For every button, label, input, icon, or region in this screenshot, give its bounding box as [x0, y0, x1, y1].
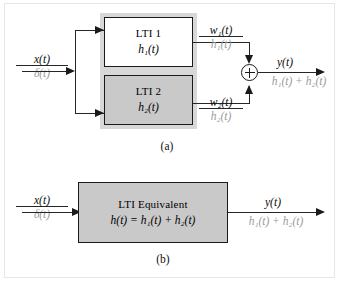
block-diagram-figure: x(t) δ(t) LTI 1 h₁(t) LTI 2 h₂(t) w₁(t) … — [0, 0, 340, 282]
diagram-a-w1-secondary: h₁(t) — [199, 37, 243, 50]
diagram-a-branch2-arrowhead — [95, 109, 104, 117]
diagram-a-branch1-arrowhead — [95, 26, 104, 34]
diagram-a-w1-primary: w₁(t) — [199, 24, 243, 36]
diagram-b-output-primary-label: y(t) — [252, 196, 294, 208]
block-lti-equivalent-equation: h(t) = h₁(t) + h₂(t) — [111, 214, 196, 228]
diagram-b-output-arrowhead — [316, 208, 325, 216]
diagram-a-output-primary: y(t) — [264, 56, 306, 68]
diagram-a-w2-primary: w₂(t) — [199, 96, 243, 108]
diagram-a-w1-label: w₁(t) h₁(t) — [199, 24, 243, 50]
diagram-b-input-wire — [22, 212, 78, 213]
diagram-a-w2-arrowhead — [245, 85, 253, 94]
summing-junction-icon[interactable] — [241, 64, 258, 81]
diagram-a-output-primary-label: y(t) — [264, 56, 306, 68]
summing-junction-plus-vertical — [249, 68, 250, 78]
diagram-a-input-arrowhead — [66, 67, 75, 75]
block-lti-1-impulse-response: h₁(t) — [138, 43, 159, 57]
diagram-a-input-primary: x(t) — [16, 53, 68, 65]
block-lti-2[interactable]: LTI 2 h₂(t) — [104, 75, 193, 125]
diagram-a-input-label: x(t) δ(t) — [16, 53, 68, 79]
diagram-a-w1-arrowhead — [245, 55, 253, 64]
diagram-a-output-secondary-label: h₁(t) + h₂(t) — [258, 74, 340, 87]
diagram-a-w2-label: w₂(t) h₂(t) — [199, 96, 243, 122]
block-lti-2-impulse-response: h₂(t) — [138, 101, 159, 115]
block-lti-equivalent-title: LTI Equivalent — [118, 198, 187, 211]
diagram-b-input-secondary: δ(t) — [16, 207, 68, 220]
diagram-a-input-secondary: δ(t) — [16, 66, 68, 79]
diagram-b-input-label: x(t) δ(t) — [16, 194, 68, 220]
diagram-b-output-primary: y(t) — [252, 196, 294, 208]
block-lti-equivalent[interactable]: LTI Equivalent h(t) = h₁(t) + h₂(t) — [78, 182, 228, 243]
caption-a: (a) — [147, 140, 187, 152]
diagram-b-output-secondary-label: h₁(t) + h₂(t) — [235, 214, 317, 227]
diagram-a-w2-secondary: h₂(t) — [199, 109, 243, 122]
diagram-a-split-bus — [75, 30, 76, 114]
caption-b: (b) — [143, 253, 183, 265]
block-lti-2-title: LTI 2 — [136, 85, 161, 98]
diagram-a-output-secondary: h₁(t) + h₂(t) — [258, 74, 340, 87]
diagram-b-input-primary: x(t) — [16, 194, 68, 206]
diagram-a-input-wire — [22, 71, 70, 72]
block-lti-1-title: LTI 1 — [136, 27, 161, 40]
block-lti-1[interactable]: LTI 1 h₁(t) — [104, 17, 193, 67]
diagram-b-output-secondary: h₁(t) + h₂(t) — [235, 214, 317, 227]
